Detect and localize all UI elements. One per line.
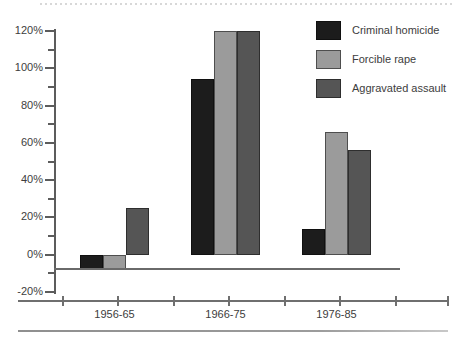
y-axis-tick-label: 40% [0,174,43,185]
x-tick [117,296,119,306]
x-tick [284,296,286,306]
legend-swatch-criminal-homicide [316,21,341,40]
legend-swatch-aggravated-assault [316,79,341,98]
bar-1976-85-forcible-rape [325,132,348,255]
y-axis-tick-label: 120% [0,25,43,36]
bar-1966-75-aggravated-assault [237,31,260,255]
y-axis-tick-label: -20% [0,286,43,297]
x-tick [228,296,230,306]
x-axis-category-label: 1976-85 [292,308,382,320]
x-axis-category-label: 1966-75 [181,308,271,320]
bar-1966-75-criminal-homicide [191,79,214,254]
top-dotted-divider [40,3,455,5]
bar-1976-85-aggravated-assault [348,150,371,254]
y-axis-tick-label: 60% [0,137,43,148]
y-axis-tick-label: 20% [0,211,43,222]
y-axis-tick-label: 80% [0,100,43,111]
x-axis-line [18,300,448,302]
legend-swatch-forcible-rape [316,50,341,69]
y-axis-tick-label: 100% [0,62,43,73]
legend-label: Forcible rape [352,53,416,66]
legend-label: Aggravated assault [352,82,446,95]
legend-row: Criminal homicide [316,21,461,50]
x-tick [173,296,175,306]
x-tick [62,296,64,306]
legend-label: Criminal homicide [352,24,439,37]
legend-row: Forcible rape [316,50,461,79]
bar-chart-figure: 120%100%80%60%40%20%0%-20% 1956-651966-7… [0,0,461,344]
x-tick [395,296,397,306]
x-tick [339,296,341,306]
bar-1966-75-forcible-rape [214,31,237,255]
bottom-divider-rule [18,330,448,332]
zero-baseline [54,268,400,270]
bar-1956-65-aggravated-assault [126,208,149,255]
chart-legend: Criminal homicideForcible rapeAggravated… [316,21,461,108]
y-axis-tick-label: 0% [0,249,43,260]
x-axis-category-label: 1956-65 [70,308,160,320]
x-tick [447,296,449,306]
legend-row: Aggravated assault [316,79,461,108]
bar-1976-85-criminal-homicide [302,229,325,255]
